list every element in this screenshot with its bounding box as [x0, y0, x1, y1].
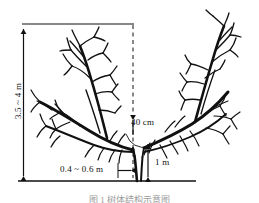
- spread-dimension-label: 0.4 ~ 0.6 m: [60, 164, 103, 174]
- left-main-branch: [31, 27, 133, 163]
- tree-structure-diagram: 3.5 ~ 4 m 0.4 ~ 0.6 m 1 m 40 cm 图 1 树体结构…: [0, 0, 259, 203]
- diagram-canvas: [0, 0, 259, 203]
- spacing-dimension-label: 40 cm: [131, 117, 154, 127]
- central-trunk: [133, 148, 144, 181]
- trunk-dimension-label: 1 m: [155, 157, 169, 167]
- height-dimension-label: 3.5 ~ 4 m: [13, 69, 23, 133]
- figure-caption: 图 1 树体结构示意图: [0, 193, 259, 203]
- right-main-branch: [144, 10, 241, 158]
